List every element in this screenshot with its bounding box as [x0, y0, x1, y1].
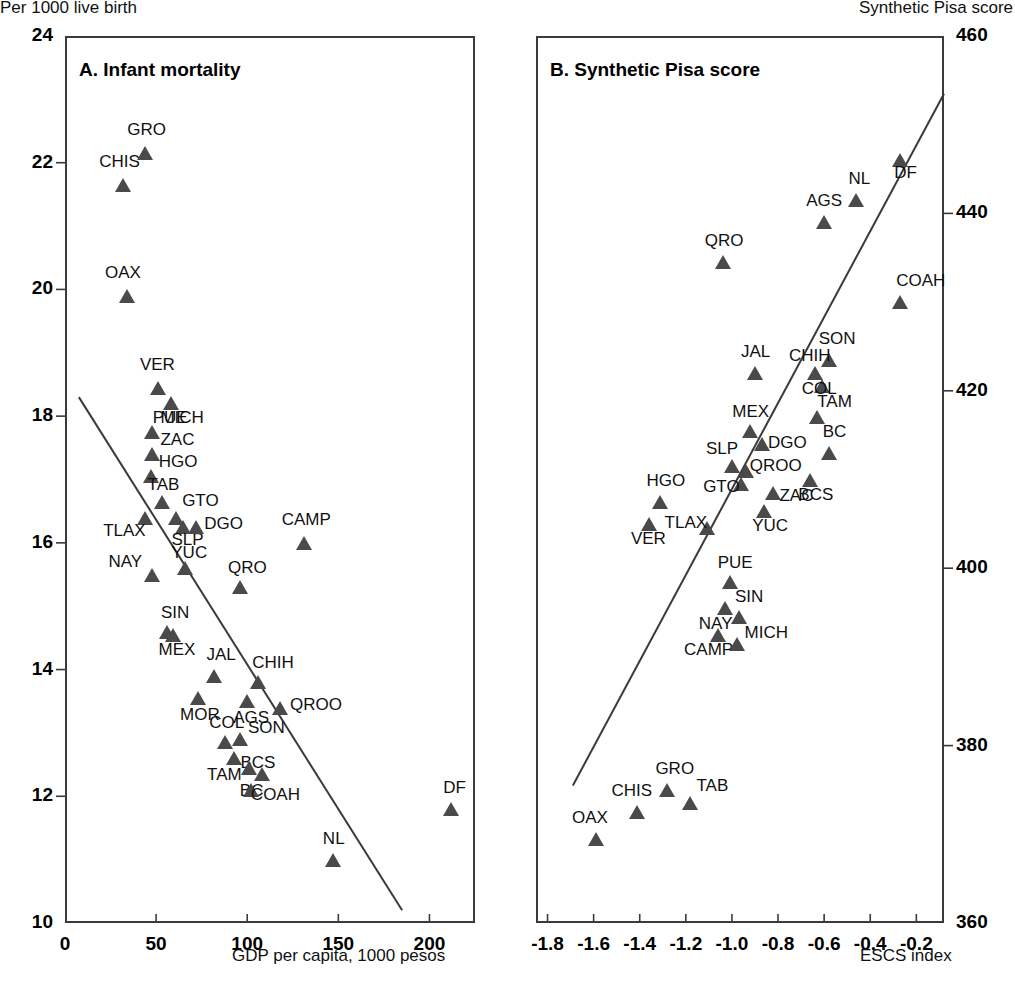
triangle-marker-icon	[729, 637, 745, 651]
data-point-label: COAH	[896, 272, 945, 289]
triangle-marker-icon	[747, 366, 763, 380]
data-point-label: NL	[848, 170, 870, 187]
triangle-marker-icon	[588, 832, 604, 846]
data-point-label: DF	[894, 164, 917, 181]
data-point-label: GRO	[655, 760, 694, 777]
data-point-label: JAL	[206, 646, 235, 663]
triangle-marker-icon	[177, 561, 193, 575]
data-point-label: MICH	[160, 409, 203, 426]
data-point-label: MICH	[745, 624, 788, 641]
data-point-label: MEX	[732, 403, 769, 420]
right-axis-caption: Synthetic Pisa score	[859, 0, 1013, 18]
triangle-marker-icon	[807, 366, 823, 380]
triangle-marker-icon	[325, 853, 341, 867]
panel-a-x-axis-label: GDP per capita, 1000 pesos	[232, 946, 445, 966]
panel-b-title: B. Synthetic Pisa score	[550, 59, 760, 81]
data-point-label: QRO	[228, 559, 267, 576]
data-point-label: OAX	[572, 809, 608, 826]
triangle-marker-icon	[188, 520, 204, 534]
triangle-marker-icon	[272, 701, 288, 715]
data-point-label: CHIH	[252, 654, 294, 671]
triangle-marker-icon	[443, 802, 459, 816]
triangle-marker-icon	[296, 536, 312, 550]
triangle-marker-icon	[144, 425, 160, 439]
y-tick-label: 360	[956, 911, 1015, 933]
data-point-label: DF	[443, 779, 466, 796]
data-point-label: BC	[823, 423, 847, 440]
triangle-marker-icon	[150, 381, 166, 395]
data-point-label: VER	[631, 530, 666, 547]
panel-a-title: A. Infant mortality	[79, 59, 241, 81]
data-point-label: PUE	[718, 554, 753, 571]
triangle-marker-icon	[250, 675, 266, 689]
triangle-marker-icon	[682, 796, 698, 810]
data-point-label: NL	[323, 830, 345, 847]
y-tick-label: 380	[956, 734, 1015, 756]
data-point-label: NAY	[108, 553, 142, 570]
data-point-label: YUC	[752, 517, 788, 534]
data-point-label: SON	[819, 330, 856, 347]
data-point-label: SIN	[161, 604, 189, 621]
y-tick-label: 14	[7, 658, 53, 680]
data-point-label: TAB	[148, 476, 180, 493]
triangle-marker-icon	[652, 495, 668, 509]
data-point-label: DGO	[204, 515, 243, 532]
triangle-marker-icon	[254, 767, 270, 781]
data-point-label: AGS	[806, 192, 842, 209]
data-point-label: VER	[140, 356, 175, 373]
data-point-label: GRO	[127, 121, 166, 138]
panel-b-x-axis-label: ESCS index	[860, 946, 952, 966]
data-point-label: CAMP	[282, 511, 331, 528]
data-point-label: TLAX	[665, 514, 708, 531]
data-point-label: TAB	[696, 777, 728, 794]
triangle-marker-icon	[892, 295, 908, 309]
triangle-marker-icon	[659, 783, 675, 797]
y-tick-label: 20	[7, 277, 53, 299]
triangle-marker-icon	[154, 495, 170, 509]
y-tick-label: 10	[7, 911, 53, 933]
triangle-marker-icon	[742, 424, 758, 438]
y-tick-label: 460	[956, 24, 1015, 46]
data-point-label: MEX	[159, 641, 196, 658]
data-point-label: ZAC	[779, 487, 813, 504]
data-point-label: CHIH	[789, 347, 831, 364]
left-axis-caption: Per 1000 live birth	[0, 0, 137, 18]
triangle-marker-icon	[115, 178, 131, 192]
y-tick-label: 12	[7, 784, 53, 806]
data-point-label: TAM	[817, 393, 852, 410]
data-point-label: QROO	[750, 457, 802, 474]
triangle-marker-icon	[629, 805, 645, 819]
triangle-marker-icon	[731, 610, 747, 624]
y-tick-label: 22	[7, 151, 53, 173]
x-tick-label: 0	[35, 933, 95, 955]
triangle-marker-icon	[848, 193, 864, 207]
data-point-label: DGO	[768, 434, 807, 451]
data-point-label: TLAX	[103, 522, 146, 539]
data-point-label: GTO	[703, 478, 740, 495]
data-point-label: JAL	[741, 343, 770, 360]
triangle-marker-icon	[239, 694, 255, 708]
data-point-label: CHIS	[99, 153, 140, 170]
y-tick-label: 16	[7, 531, 53, 553]
data-point-label: SIN	[735, 588, 763, 605]
data-point-label: GTO	[182, 492, 219, 509]
triangle-marker-icon	[206, 669, 222, 683]
data-point-label: COL	[209, 714, 244, 731]
data-point-label: TAM	[207, 766, 242, 783]
y-tick-label: 18	[7, 404, 53, 426]
triangle-marker-icon	[232, 732, 248, 746]
triangle-marker-icon	[715, 255, 731, 269]
triangle-marker-icon	[816, 215, 832, 229]
data-point-label: CAMP	[684, 641, 733, 658]
triangle-marker-icon	[144, 568, 160, 582]
triangle-marker-icon	[119, 289, 135, 303]
y-tick-label: 24	[7, 24, 53, 46]
data-point-label: QRO	[705, 232, 744, 249]
data-point-label: SLP	[706, 440, 738, 457]
data-point-label: QROO	[290, 696, 342, 713]
y-tick-label: 400	[956, 556, 1015, 578]
x-tick-label: 50	[126, 933, 186, 955]
triangle-marker-icon	[821, 446, 837, 460]
triangle-marker-icon	[190, 691, 206, 705]
y-tick-label: 440	[956, 201, 1015, 223]
